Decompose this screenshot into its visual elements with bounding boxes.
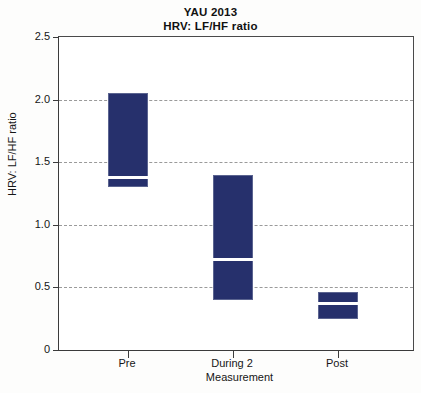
- y-tick-mark: [53, 287, 59, 288]
- y-tick-label: 0: [8, 343, 50, 355]
- x-axis-label: Measurement: [0, 371, 421, 383]
- y-tick-mark: [53, 100, 59, 101]
- range-bar-post: [318, 292, 358, 318]
- median-line-during-2: [213, 258, 253, 261]
- y-tick-mark: [53, 225, 59, 226]
- plot-area: [58, 36, 414, 351]
- y-axis-label: HRV: LF/HF ratio: [6, 112, 18, 196]
- y-tick-mark: [53, 37, 59, 38]
- page-title: YAU 2013: [0, 5, 421, 19]
- y-tick-mark: [53, 350, 59, 351]
- x-tick-label-pre: Pre: [118, 357, 135, 369]
- median-line-post: [318, 302, 358, 305]
- median-line-pre: [108, 176, 148, 179]
- y-tick-label: 2.5: [8, 30, 50, 42]
- chart-screenshot: YAU 2013 HRV: LF/HF ratio HRV: LF/HF rat…: [0, 0, 421, 393]
- chart-subtitle: HRV: LF/HF ratio: [0, 19, 421, 33]
- y-tick-label: 1.0: [8, 218, 50, 230]
- x-tick-label-post: Post: [326, 357, 348, 369]
- y-tick-label: 2.0: [8, 93, 50, 105]
- y-tick-label: 1.5: [8, 155, 50, 167]
- range-bar-during-2: [213, 175, 253, 300]
- y-tick-mark: [53, 162, 59, 163]
- range-bar-pre: [108, 93, 148, 187]
- x-tick-label-during-2: During 2: [211, 357, 253, 369]
- y-tick-label: 0.5: [8, 280, 50, 292]
- chart-title-block: YAU 2013 HRV: LF/HF ratio: [0, 5, 421, 33]
